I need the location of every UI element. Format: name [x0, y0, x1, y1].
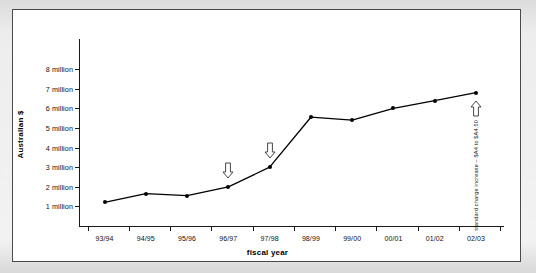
- up-arrow-icon: [470, 100, 482, 121]
- data-point-96-97: [226, 185, 230, 189]
- annotation-text-3: standard charge increase – $A4 to $A4.50: [473, 120, 479, 231]
- data-point-94-95: [144, 192, 148, 196]
- data-point-97-98: [268, 165, 272, 169]
- data-point-02-03: [474, 91, 478, 95]
- chart-frame: Australian $ fiscal year 1 million2 mill…: [12, 9, 521, 262]
- data-point-00-01: [391, 106, 395, 110]
- data-point-99-00: [350, 118, 354, 122]
- data-point-95-96: [185, 194, 189, 198]
- screenshot-page: Australian $ fiscal year 1 million2 mill…: [0, 0, 536, 273]
- line-chart: Australian $ fiscal year 1 million2 mill…: [13, 10, 521, 262]
- down-arrow-icon: [222, 162, 234, 183]
- series-line: [13, 10, 521, 262]
- down-arrow-icon: [264, 142, 276, 163]
- data-point-01-02: [433, 99, 437, 103]
- data-point-98-99: [309, 115, 313, 119]
- data-point-93-94: [103, 200, 107, 204]
